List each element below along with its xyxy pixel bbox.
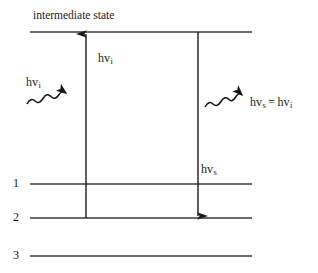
emission-label-subscript: s <box>213 167 217 177</box>
diagram-title: intermediate state <box>33 10 114 22</box>
scattered-photon-subscript-2: i <box>290 100 293 110</box>
energy-level-diagram: intermediate state 1 2 3 hvi hvs hvi hvs… <box>0 0 318 273</box>
level-label-2: 2 <box>13 211 19 223</box>
incident-photon-squiggle <box>27 92 66 104</box>
incident-photon-label: hvi <box>26 76 41 90</box>
equality-sign: = <box>266 95 278 109</box>
emission-label-base: hv <box>201 162 213 176</box>
diagram-canvas <box>0 0 318 273</box>
scattered-photon-base: hv <box>250 95 262 109</box>
scattered-photon-label: hvs=hvi <box>250 96 292 110</box>
scattered-photon-squiggle <box>205 94 242 107</box>
incident-photon-subscript: i <box>38 80 41 90</box>
level-lines <box>30 32 252 256</box>
level-label-1: 1 <box>13 177 19 189</box>
absorption-label-subscript: i <box>110 56 113 66</box>
scattered-photon-base-2: hv <box>278 95 290 109</box>
absorption-label-base: hv <box>98 51 110 65</box>
level-label-3: 3 <box>13 249 19 261</box>
emission-transition-label: hvs <box>201 163 217 177</box>
incident-photon-base: hv <box>26 75 38 89</box>
absorption-transition-label: hvi <box>98 52 113 66</box>
